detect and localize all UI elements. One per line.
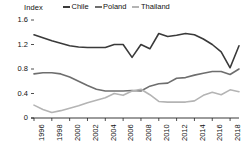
series-line-thailand — [34, 89, 239, 112]
series-line-poland — [34, 69, 239, 91]
series-line-chile — [34, 33, 239, 67]
plot-area — [0, 0, 241, 149]
chart-container: Index Chile Poland Thailand 00.40.81.21.… — [0, 0, 241, 149]
